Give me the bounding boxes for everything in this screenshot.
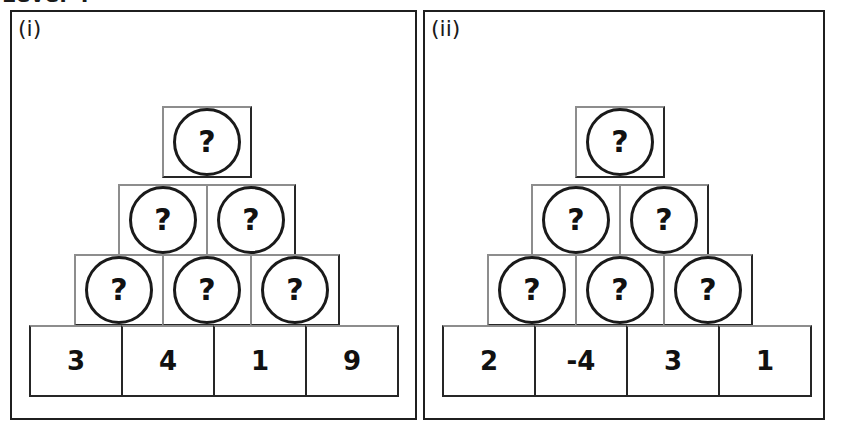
pyramid-i-row-3: ? ? ? (74, 254, 340, 326)
pyramid-i-cell-r4c2[interactable]: 4 (121, 325, 215, 397)
pyramid-ii-cell-r4c4[interactable]: 1 (718, 325, 812, 397)
question-mark-icon: ? (542, 186, 610, 254)
question-mark-icon: ? (674, 256, 742, 324)
cell-value: 2 (480, 348, 498, 374)
pyramid-ii-cell-r4c1[interactable]: 2 (442, 325, 536, 397)
panels-container: (i) ? ? ? ? ? (10, 10, 825, 420)
pyramid-i-cell-r2c1[interactable]: ? (118, 184, 208, 256)
cell-value: 9 (343, 348, 361, 374)
question-mark-icon: ? (173, 256, 241, 324)
pyramid-ii-cell-r4c3[interactable]: 3 (626, 325, 720, 397)
cell-value: 3 (67, 348, 85, 374)
pyramid-i-cell-r1c1[interactable]: ? (162, 106, 252, 178)
pyramid-i: ? ? ? ? ? ? (12, 12, 415, 418)
pyramid-ii-cell-r2c1[interactable]: ? (531, 184, 621, 256)
question-mark-icon: ? (630, 186, 698, 254)
question-mark-icon: ? (261, 256, 329, 324)
pyramid-i-cell-r3c2[interactable]: ? (162, 254, 252, 326)
pyramid-i-cell-r3c3[interactable]: ? (250, 254, 340, 326)
pyramid-i-cell-r3c1[interactable]: ? (74, 254, 164, 326)
question-mark-icon: ? (586, 108, 654, 176)
panel-ii: (ii) ? ? ? ? ? (423, 10, 825, 420)
pyramid-ii-row-2: ? ? (531, 184, 709, 256)
pyramid-ii-cell-r1c1[interactable]: ? (575, 106, 665, 178)
pyramid-i-cell-r2c2[interactable]: ? (206, 184, 296, 256)
pyramid-ii-row-3: ? ? ? (487, 254, 753, 326)
cell-value: 1 (756, 348, 774, 374)
cell-value: 3 (664, 348, 682, 374)
pyramid-i-cell-r4c4[interactable]: 9 (305, 325, 399, 397)
pyramid-ii-cell-r4c2[interactable]: -4 (534, 325, 628, 397)
pyramid-ii-row-4: 2 -4 3 1 (442, 325, 812, 397)
pyramid-ii-cell-r3c2[interactable]: ? (575, 254, 665, 326)
question-mark-icon: ? (129, 186, 197, 254)
panel-i: (i) ? ? ? ? ? (10, 10, 417, 420)
pyramid-ii: ? ? ? ? ? ? (425, 12, 823, 418)
pyramid-ii-row-1: ? (575, 106, 665, 178)
pyramid-i-row-2: ? ? (118, 184, 296, 256)
cell-value: -4 (567, 348, 596, 374)
pyramid-i-row-1: ? (162, 106, 252, 178)
pyramid-i-cell-r4c1[interactable]: 3 (29, 325, 123, 397)
question-mark-icon: ? (85, 256, 153, 324)
pyramid-ii-cell-r3c1[interactable]: ? (487, 254, 577, 326)
pyramid-i-row-4: 3 4 1 9 (29, 325, 399, 397)
question-mark-icon: ? (498, 256, 566, 324)
question-mark-icon: ? (586, 256, 654, 324)
question-mark-icon: ? (217, 186, 285, 254)
question-mark-icon: ? (173, 108, 241, 176)
pyramid-i-cell-r4c3[interactable]: 1 (213, 325, 307, 397)
cell-value: 4 (159, 348, 177, 374)
pyramid-ii-cell-r2c2[interactable]: ? (619, 184, 709, 256)
pyramid-ii-cell-r3c3[interactable]: ? (663, 254, 753, 326)
worksheet-heading-text: Level 4 (0, 0, 300, 7)
worksheet-heading: Level 4 (0, 0, 300, 7)
cell-value: 1 (251, 348, 269, 374)
